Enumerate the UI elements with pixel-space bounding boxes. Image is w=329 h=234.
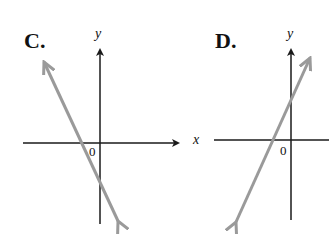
c-origin-label: 0 bbox=[89, 144, 96, 160]
c-y-axis-label: y bbox=[95, 26, 101, 42]
d-origin-label: 0 bbox=[280, 143, 287, 159]
d-y-axis-label: y bbox=[287, 26, 293, 42]
panel-c-label: C. bbox=[24, 28, 45, 54]
c-x-axis-label: x bbox=[193, 132, 199, 148]
panel-d-graph bbox=[214, 50, 329, 222]
c-line bbox=[44, 62, 118, 221]
panel-d-label: D. bbox=[215, 28, 236, 54]
panel-c-graph bbox=[23, 50, 178, 224]
graphs-canvas bbox=[0, 0, 329, 234]
